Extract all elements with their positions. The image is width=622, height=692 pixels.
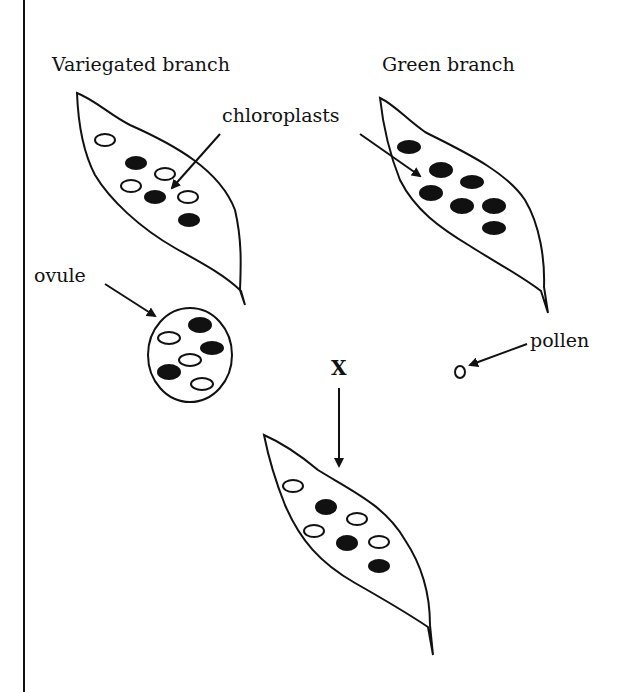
chloroplasts-arrow-left bbox=[172, 134, 220, 188]
pollen bbox=[455, 366, 465, 378]
ovule bbox=[148, 308, 232, 402]
chloroplasts-label: chloroplasts bbox=[222, 106, 340, 125]
diagram-canvas: Variegated branch Green branch chloropla… bbox=[0, 0, 622, 692]
green-leaf bbox=[380, 98, 548, 313]
green-branch-label: Green branch bbox=[382, 55, 515, 74]
pollen-label: pollen bbox=[530, 331, 589, 350]
variegated-branch-label: Variegated branch bbox=[52, 55, 230, 74]
offspring-leaf bbox=[264, 435, 433, 655]
ovule-arrow bbox=[105, 284, 155, 316]
variegated-leaf bbox=[77, 93, 245, 305]
ovule-label: ovule bbox=[34, 266, 86, 285]
cross-symbol: X bbox=[331, 358, 347, 378]
pollen-arrow bbox=[470, 344, 527, 365]
